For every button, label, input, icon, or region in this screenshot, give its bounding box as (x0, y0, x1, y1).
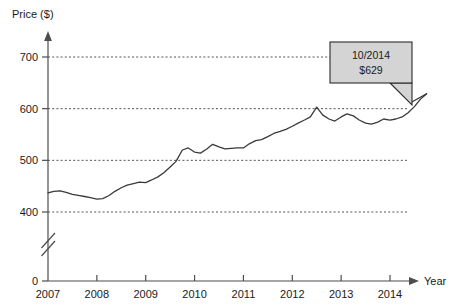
y-tick-label-700: 700 (20, 51, 38, 63)
y-axis (42, 31, 56, 281)
x-axis: Year (48, 275, 447, 287)
data-series-group (48, 94, 427, 199)
x-tick-label-2007: 2007 (36, 288, 60, 300)
series-line-price (48, 94, 427, 199)
x-tick-label-2008: 2008 (85, 288, 109, 300)
x-tick-label-2014: 2014 (378, 288, 402, 300)
x-axis-title: Year (424, 275, 447, 287)
y-tick-label-400: 400 (20, 206, 38, 218)
x-tick-label-2011: 2011 (232, 288, 256, 300)
y-tick-label-500: 500 (20, 154, 38, 166)
callout-price-label: $629 (359, 64, 383, 76)
y-axis-arrowhead (44, 31, 52, 41)
x-tick-label-2013: 2013 (329, 288, 353, 300)
x-axis-arrowhead (409, 277, 419, 285)
x-tick-label-2009: 2009 (133, 288, 157, 300)
y-axis-ticks: 0400500600700 (20, 51, 48, 287)
y-axis-title: Price ($) (12, 8, 54, 20)
x-tick-label-2012: 2012 (280, 288, 304, 300)
callout-tail (390, 83, 412, 105)
callout-date-label: 10/2014 (352, 49, 390, 61)
x-axis-ticks: 20072008200920102011201220132014 (36, 275, 402, 300)
price-chart: Price ($) Year 0400500600700 20072008200… (0, 0, 451, 306)
price-callout: 10/2014 $629 (330, 42, 427, 105)
y-tick-label-600: 600 (20, 103, 38, 115)
chart-canvas: Price ($) Year 0400500600700 20072008200… (0, 0, 451, 306)
y-tick-label-0: 0 (32, 275, 38, 287)
x-tick-label-2010: 2010 (182, 288, 206, 300)
